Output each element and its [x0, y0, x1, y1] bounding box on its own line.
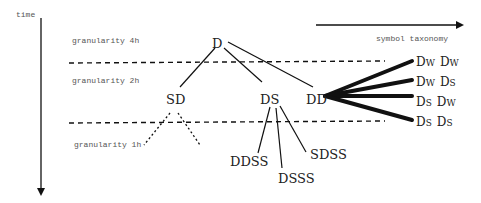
dd-expansion-edges	[325, 61, 412, 120]
node-ds: DS	[260, 92, 279, 107]
time-axis-label: time	[16, 10, 35, 19]
symbol-taxonomy-diagram: time symbol taxonomy granularity 4h gran…	[0, 0, 481, 203]
dd-expansion-label-0: DWDW	[416, 55, 460, 69]
granularity-1h-label: granularity 1h	[74, 140, 141, 149]
tree-edges	[180, 42, 313, 168]
node-dsss: DSSS	[278, 171, 315, 186]
taxonomy-axis-label: symbol taxonomy	[376, 34, 448, 43]
granularity-4h-label: granularity 4h	[72, 36, 139, 45]
svg-text:DWDW: DWDW	[416, 55, 460, 69]
granularity-2h-label: granularity 2h	[72, 76, 139, 85]
dd-expansion-label-3: DSDS	[416, 115, 453, 129]
node-root: D	[212, 36, 222, 51]
svg-text:DSDS: DSDS	[416, 115, 453, 129]
dd-expansion-label-2: DSDW	[416, 95, 456, 109]
separator-4h-2h	[69, 61, 385, 63]
node-dd: DD	[306, 92, 327, 107]
separator-2h-1h	[69, 121, 385, 123]
tree-dotted-edges	[144, 113, 200, 145]
dd-expansion-label-1: DWDS	[416, 75, 456, 89]
node-ddss: DDSS	[230, 154, 268, 169]
svg-text:DWDS: DWDS	[416, 75, 456, 89]
svg-text:DSDW: DSDW	[416, 95, 456, 109]
node-sdss: SDSS	[310, 147, 347, 162]
node-sd: SD	[166, 92, 185, 107]
